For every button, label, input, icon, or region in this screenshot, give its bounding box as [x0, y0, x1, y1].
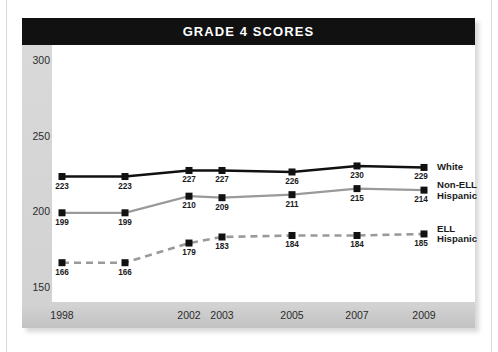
data-label: 183 — [215, 242, 229, 251]
data-point-marker — [421, 230, 428, 237]
x-axis-tick-2005: 2005 — [280, 309, 303, 321]
data-label: 226 — [285, 177, 299, 186]
data-point-marker — [354, 162, 361, 169]
data-point-marker — [421, 164, 428, 171]
data-label: 166 — [118, 268, 132, 277]
data-label: 223 — [118, 182, 132, 191]
chart-card: GRADE 4 SCORES 150200250300 199820022003… — [22, 18, 475, 328]
data-point-marker — [421, 187, 428, 194]
data-point-marker — [59, 209, 66, 216]
legend-label-line2: Hispanic — [437, 191, 477, 202]
data-point-marker — [186, 240, 193, 247]
data-point-marker — [289, 232, 296, 239]
data-point-marker — [59, 173, 66, 180]
legend-item-0: White — [437, 162, 463, 173]
data-point-marker — [289, 191, 296, 198]
data-point-marker — [122, 259, 129, 266]
data-point-marker — [122, 209, 129, 216]
x-axis-tick-2009: 2009 — [412, 309, 435, 321]
y-axis-tick-300: 300 — [24, 54, 50, 66]
data-label: 210 — [182, 201, 196, 210]
y-axis-tick-150: 150 — [24, 281, 50, 293]
x-axis-labels: 199820022003200520072009 — [22, 302, 475, 328]
data-label: 166 — [55, 268, 69, 277]
data-point-marker — [354, 185, 361, 192]
data-label: 184 — [285, 240, 299, 249]
data-label: 215 — [350, 194, 364, 203]
data-label: 199 — [118, 218, 132, 227]
data-label: 199 — [55, 218, 69, 227]
data-label: 211 — [285, 200, 298, 209]
data-point-marker — [59, 259, 66, 266]
data-point-marker — [354, 232, 361, 239]
x-axis-tick-2007: 2007 — [345, 309, 368, 321]
plot-area: 2232232272272262302291991992102092112152… — [52, 45, 475, 302]
x-axis-tick-1998: 1998 — [50, 309, 73, 321]
y-axis-tick-250: 250 — [24, 130, 50, 142]
chart-title: GRADE 4 SCORES — [183, 24, 315, 39]
series-line-2 — [62, 234, 424, 263]
y-axis-labels: 150200250300 — [22, 45, 50, 328]
series-lines — [52, 45, 475, 302]
series-line-0 — [62, 166, 424, 177]
chart-figure: GRADE 4 SCORES 150200250300 199820022003… — [0, 0, 498, 352]
legend-label-line1: White — [437, 162, 463, 173]
legend-label-line2: Hispanic — [437, 234, 477, 245]
data-label: 209 — [215, 203, 229, 212]
data-label: 230 — [350, 171, 364, 180]
data-label: 214 — [414, 195, 428, 204]
data-label: 179 — [182, 248, 196, 257]
chart-title-banner: GRADE 4 SCORES — [22, 18, 475, 45]
data-point-marker — [219, 233, 226, 240]
data-label: 227 — [215, 175, 229, 184]
data-point-marker — [289, 168, 296, 175]
x-axis-tick-2003: 2003 — [210, 309, 233, 321]
y-axis-tick-200: 200 — [24, 205, 50, 217]
data-point-marker — [186, 167, 193, 174]
series-line-1 — [62, 189, 424, 213]
legend-item-2: ELLHispanic — [437, 224, 477, 245]
data-label: 227 — [182, 175, 196, 184]
page-rule-left — [6, 0, 7, 352]
data-label: 184 — [350, 240, 364, 249]
legend-item-1: Non-ELLHispanic — [437, 180, 477, 201]
x-axis-tick-2002: 2002 — [177, 309, 200, 321]
data-point-marker — [219, 167, 226, 174]
data-point-marker — [122, 173, 129, 180]
data-label: 223 — [55, 182, 69, 191]
data-point-marker — [219, 194, 226, 201]
data-label: 229 — [414, 172, 428, 181]
page-rule-right — [491, 0, 492, 352]
data-point-marker — [186, 193, 193, 200]
data-label: 185 — [414, 239, 428, 248]
